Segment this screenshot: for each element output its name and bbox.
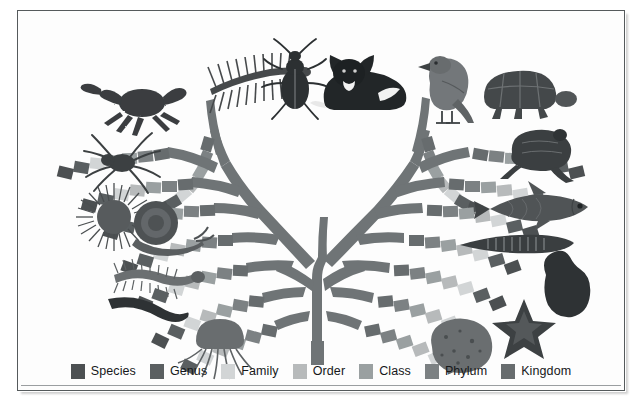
legend-label-order: Order [313, 365, 345, 378]
legend-swatch-family [221, 364, 235, 379]
legend-item-genus[interactable]: Genus [150, 364, 207, 379]
beetle-illustration [262, 39, 328, 119]
phylogenetic-tree-figure: Species Genus Family Order Class [0, 0, 643, 407]
legend-label-genus: Genus [170, 365, 207, 378]
legend-swatch-kingdom [501, 364, 515, 379]
figure-canvas: Species Genus Family Order Class [18, 11, 624, 390]
sea-squirt-illustration [544, 251, 590, 318]
snail-illustration [132, 201, 214, 256]
spider-illustration [84, 133, 160, 193]
marine-worm-illustration [114, 259, 205, 299]
legend-item-kingdom[interactable]: Kingdom [501, 364, 571, 379]
legend-item-family[interactable]: Family [221, 364, 278, 379]
bird-illustration [418, 56, 474, 123]
flatworm-illustration [108, 297, 189, 322]
starfish-illustration [492, 299, 556, 359]
fish-illustration [474, 181, 588, 231]
frog-illustration [500, 129, 574, 183]
legend-swatch-phylum [425, 364, 439, 379]
legend-item-species[interactable]: Species [71, 364, 136, 379]
cat-illustration [310, 55, 406, 110]
legend-label-kingdom: Kingdom [521, 365, 571, 378]
tortoise-illustration [484, 71, 577, 119]
legend-swatch-order [293, 364, 307, 379]
legend-item-class[interactable]: Class [359, 364, 411, 379]
legend-label-family: Family [241, 365, 278, 378]
crab-illustration [81, 84, 187, 136]
legend-item-phylum[interactable]: Phylum [425, 364, 487, 379]
legend-swatch-species [71, 364, 85, 379]
legend-item-order[interactable]: Order [293, 364, 345, 379]
legend-label-species: Species [91, 365, 136, 378]
legend-label-class: Class [379, 365, 411, 378]
legend-swatch-class [359, 364, 373, 379]
legend-baseline-rule [21, 385, 621, 386]
legend-label-phylum: Phylum [445, 365, 487, 378]
figure-frame: Species Genus Family Order Class [17, 10, 625, 391]
taxonomic-rank-legend: Species Genus Family Order Class [18, 360, 624, 382]
lancelet-illustration [460, 235, 574, 254]
organism-illustrations [18, 11, 624, 390]
legend-swatch-genus [150, 364, 164, 379]
